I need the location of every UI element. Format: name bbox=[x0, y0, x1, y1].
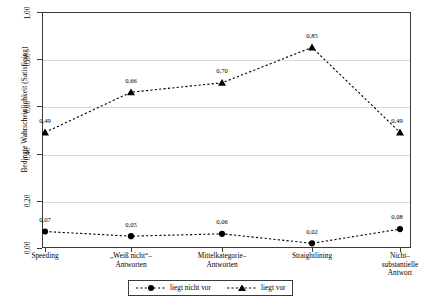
y-tick-label-0.20: 0,20 bbox=[24, 181, 32, 221]
point-label-liegt-vor-1: 0,66 bbox=[118, 77, 144, 84]
y-tick-label-1.00: 1,00 bbox=[24, 0, 32, 33]
x-category-label-nicht-substantielle-antwort: Nicht– substantielle Antwort bbox=[354, 252, 427, 278]
series-markers-liegt-vor bbox=[42, 44, 404, 136]
legend-item-liegt-vor[interactable]: liegt vor bbox=[227, 283, 286, 292]
point-label-liegt-vor-4: 0,49 bbox=[384, 117, 410, 124]
x-category-line: Antworten bbox=[85, 261, 177, 270]
x-category-line: Speeding bbox=[0, 252, 91, 261]
point-label-liegt-vor-3: 0,85 bbox=[299, 32, 325, 39]
point-label-liegt-vor-0: 0,49 bbox=[32, 117, 58, 124]
series-line-liegt-vor bbox=[45, 47, 400, 132]
x-category-line: Straightlining bbox=[266, 252, 358, 261]
point-label-liegt-nicht-vor-2: 0,06 bbox=[209, 218, 235, 225]
point-label-liegt-nicht-vor-3: 0,02 bbox=[299, 228, 325, 235]
x-category-label-speeding: Speeding bbox=[0, 252, 91, 261]
y-tick-label-0.00: 0,00 bbox=[24, 228, 32, 268]
legend-label: liegt nicht vor bbox=[170, 283, 211, 292]
legend-label: liegt vor bbox=[261, 283, 286, 292]
data-series-layer bbox=[42, 12, 411, 248]
legend-item-liegt-nicht-vor[interactable]: liegt nicht vor bbox=[136, 283, 211, 292]
point-label-liegt-nicht-vor-0: 0,07 bbox=[32, 216, 58, 223]
triangle-marker-icon bbox=[227, 284, 257, 292]
x-category-label-weiss-nicht: „Weiß nicht“– Antworten bbox=[85, 252, 177, 269]
chart-legend: liegt nicht vor liegt vor bbox=[128, 280, 293, 296]
x-category-label-straightlining: Straightlining bbox=[266, 252, 358, 261]
series-markers-liegt-nicht-vor bbox=[42, 226, 403, 246]
x-category-line: Antwort bbox=[354, 269, 427, 278]
x-category-label-mittelkategorie: Mittelkategorie– Antworten bbox=[176, 252, 268, 269]
y-tick-label-0.80: 0,80 bbox=[24, 40, 32, 80]
x-category-line: Antworten bbox=[176, 261, 268, 270]
y-tick-label-0.40: 0,40 bbox=[24, 134, 32, 174]
point-label-liegt-nicht-vor-1: 0,05 bbox=[118, 221, 144, 228]
y-tick-mark bbox=[37, 248, 42, 249]
y-tick-label-0.60: 0,60 bbox=[24, 87, 32, 127]
circle-marker-icon bbox=[136, 284, 166, 292]
point-label-liegt-nicht-vor-4: 0,08 bbox=[384, 213, 410, 220]
point-label-liegt-vor-2: 0,70 bbox=[209, 67, 235, 74]
chart-figure: Bedingte Wahrscheinlichkeit (Satisficing… bbox=[0, 0, 427, 305]
